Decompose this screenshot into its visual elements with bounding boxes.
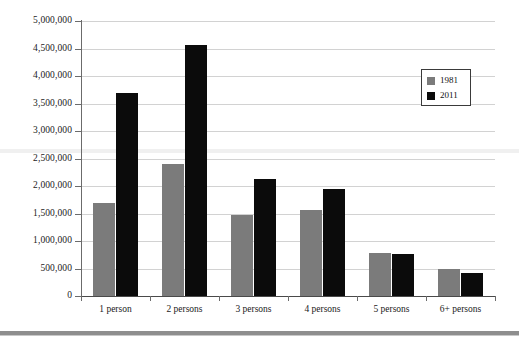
y-axis-tick-label: 4,500,000	[4, 44, 72, 54]
legend-label-1981: 1981	[440, 76, 458, 85]
plot-area	[81, 21, 495, 296]
y-axis-tick	[75, 186, 81, 187]
y-axis-tick-label: 3,500,000	[4, 99, 72, 109]
bar-1981-5-persons	[369, 253, 391, 296]
y-axis-tick	[75, 241, 81, 242]
y-axis-tick-label: 0	[4, 291, 72, 301]
legend-item-1981[interactable]: 1981	[427, 74, 458, 87]
bar-2011-5-persons	[392, 254, 414, 296]
bar-2011-4-persons	[323, 189, 345, 296]
bar-1981-1-person	[93, 203, 115, 296]
bar-1981-4-persons	[300, 210, 322, 296]
gridline-2000000	[81, 186, 495, 187]
bar-1981-2-persons	[162, 164, 184, 296]
bar-2011-1-person	[116, 93, 138, 297]
legend-label-2011: 2011	[440, 91, 458, 100]
y-axis-tick	[75, 76, 81, 77]
y-axis-tick	[75, 214, 81, 215]
x-axis-category-label: 4 persons	[288, 305, 357, 315]
y-axis-tick-label: 500,000	[4, 264, 72, 274]
y-axis-tick-label: 1,500,000	[4, 209, 72, 219]
y-axis-tick-label: 2,500,000	[4, 154, 72, 164]
bar-chart: 0500,0001,000,0001,500,0002,000,0002,500…	[0, 0, 519, 342]
x-axis-tick	[357, 296, 358, 301]
gridline-500000	[81, 269, 495, 270]
legend[interactable]: 1981 2011	[421, 69, 471, 106]
y-axis-line	[81, 20, 82, 297]
y-axis-tick-label: 5,000,000	[4, 16, 72, 26]
x-axis-tick	[426, 296, 427, 301]
y-axis-tick	[75, 131, 81, 132]
gridline-5000000	[81, 21, 495, 22]
bar-1981-3-persons	[231, 215, 253, 296]
y-axis-labels: 0500,0001,000,0001,500,0002,000,0002,500…	[0, 0, 72, 342]
x-axis-category-label: 2 persons	[150, 305, 219, 315]
x-axis-category-label: 5 persons	[357, 305, 426, 315]
bottom-rule-shadow	[0, 335, 519, 336]
y-axis-tick	[75, 159, 81, 160]
gridline-4500000	[81, 49, 495, 50]
gridline-3000000	[81, 131, 495, 132]
x-axis-tick	[495, 296, 496, 301]
x-axis-tick	[219, 296, 220, 301]
y-axis-tick-label: 4,000,000	[4, 71, 72, 81]
x-axis-category-label: 6+ persons	[426, 305, 495, 315]
bar-1981-6-persons	[438, 269, 460, 296]
bar-2011-6-persons	[461, 273, 483, 296]
gridline-1500000	[81, 214, 495, 215]
gridline-1000000	[81, 241, 495, 242]
bar-2011-2-persons	[185, 45, 207, 296]
x-axis-tick	[81, 296, 82, 301]
legend-swatch-1981-icon	[427, 77, 435, 85]
gridline-2500000	[81, 159, 495, 160]
legend-item-2011[interactable]: 2011	[427, 89, 458, 102]
x-axis-tick	[288, 296, 289, 301]
y-axis-tick-label: 3,000,000	[4, 126, 72, 136]
y-axis-tick	[75, 269, 81, 270]
y-axis-tick	[75, 104, 81, 105]
x-axis-category-label: 1 person	[81, 305, 150, 315]
y-axis-tick	[75, 21, 81, 22]
y-axis-tick-label: 1,000,000	[4, 236, 72, 246]
legend-swatch-2011-icon	[427, 92, 435, 100]
x-axis-tick	[150, 296, 151, 301]
bar-2011-3-persons	[254, 179, 276, 296]
x-axis-category-label: 3 persons	[219, 305, 288, 315]
y-axis-tick	[75, 49, 81, 50]
y-axis-tick-label: 2,000,000	[4, 181, 72, 191]
